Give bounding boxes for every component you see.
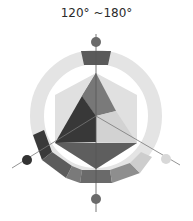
- dot-bottom: [91, 194, 101, 204]
- dot-left: [22, 155, 32, 165]
- dot-right: [161, 154, 171, 164]
- hue-wheel-diagram: [0, 0, 193, 221]
- dot-top: [91, 37, 101, 47]
